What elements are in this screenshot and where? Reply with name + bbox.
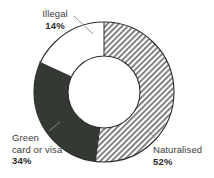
slice-label-illegal-name: Illegal xyxy=(29,8,81,20)
slice-label-naturalised-name: Naturalised xyxy=(153,144,202,156)
slice-label-illegal-percent: 14% xyxy=(29,20,81,32)
slice-label-green-card-name-line-2: card or visa xyxy=(12,144,62,156)
slice-label-green-card: Green card or visa 34% xyxy=(12,132,62,167)
donut-chart-figure: Illegal 14% Green card or visa 34% Natur… xyxy=(0,0,214,178)
slice-label-green-card-percent: 34% xyxy=(12,155,62,167)
slice-naturalised xyxy=(95,22,173,162)
slice-label-naturalised-percent: 52% xyxy=(153,156,202,168)
slice-label-naturalised: Naturalised 52% xyxy=(153,144,202,167)
slice-label-green-card-name-line-1: Green xyxy=(12,132,62,144)
slice-label-illegal: Illegal 14% xyxy=(29,8,81,31)
